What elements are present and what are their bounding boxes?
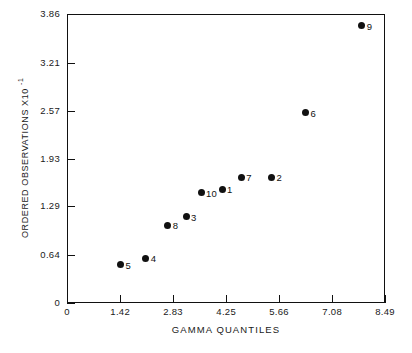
x-axis-tick [279,295,280,303]
scatter-plot-figure: 00.641.291.932.573.213.86 01.422.834.255… [0,0,412,353]
y-axis-tick-label: 1.29 [40,200,60,211]
y-axis-tick [67,255,75,256]
x-axis-tick-label: 7.08 [322,306,342,317]
data-point-label: 10 [206,188,217,199]
plot-frame [67,14,385,303]
data-point-label: 6 [311,108,316,119]
x-axis-tick-label: 5.66 [269,306,289,317]
y-axis-tick [67,111,75,112]
data-point [268,174,275,181]
y-axis-tick-label: 3.21 [40,57,60,68]
x-axis-tick [332,295,333,303]
data-point-label: 3 [191,212,196,223]
x-axis-tick-label: 4.25 [216,306,236,317]
data-point [183,213,190,220]
y-axis-tick-label: 1.93 [40,153,60,164]
data-point-label: 9 [367,21,372,32]
data-point-label: 7 [246,172,251,183]
x-axis-title: GAMMA QUANTILES [67,324,385,335]
x-axis-tick-label: 0 [64,306,70,317]
x-axis-tick-label: 8.49 [375,306,395,317]
x-axis-tick-label: 2.83 [163,306,183,317]
y-axis-tick [67,14,75,15]
y-axis-title: ORDERED OBSERVATIONS X10 -1 [14,50,28,265]
x-axis-tick-label: 1.42 [110,306,130,317]
x-axis-tick [226,295,227,303]
data-point [164,222,171,229]
y-axis-tick [67,303,75,304]
data-point-label: 2 [277,172,282,183]
x-axis-tick [385,295,386,303]
x-axis-tick [67,295,68,303]
x-axis-tick [173,295,174,303]
data-point [238,174,245,181]
y-axis-tick-label: 0 [54,297,60,308]
data-point-label: 1 [227,184,232,195]
y-axis-tick-label: 3.86 [40,8,60,19]
data-point-label: 5 [126,260,131,271]
y-axis-tick [67,63,75,64]
data-point [142,255,149,262]
data-point-label: 8 [173,220,178,231]
data-point [219,186,226,193]
y-axis-tick-label: 0.64 [40,249,60,260]
data-point-label: 4 [151,253,156,264]
y-axis-tick [67,206,75,207]
x-axis-tick [120,295,121,303]
y-axis-title-exponent: -1 [17,77,24,84]
y-axis-tick [67,159,75,160]
y-axis-tick-label: 2.57 [40,105,60,116]
